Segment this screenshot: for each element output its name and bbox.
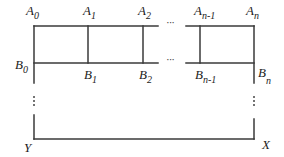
label-bn: Bn <box>258 66 271 86</box>
label-bn-1: Bn-1 <box>195 68 216 85</box>
label-an-1: An-1 <box>194 4 215 21</box>
label-an: An <box>246 4 259 21</box>
label-x: X <box>262 138 270 151</box>
label-b2: B2 <box>139 68 152 85</box>
ellipsis-top: ··· <box>166 17 174 28</box>
label-b1: B1 <box>84 68 97 85</box>
vertical-ellipsis-left <box>33 96 35 108</box>
vertical-ellipsis-right <box>253 96 255 108</box>
ellipsis-middle: ··· <box>166 54 174 65</box>
label-a0: A0 <box>26 4 39 21</box>
label-a1: A1 <box>83 4 96 21</box>
label-y: Y <box>24 141 31 154</box>
label-b0: B0 <box>15 58 28 75</box>
label-a2: A2 <box>138 4 151 21</box>
